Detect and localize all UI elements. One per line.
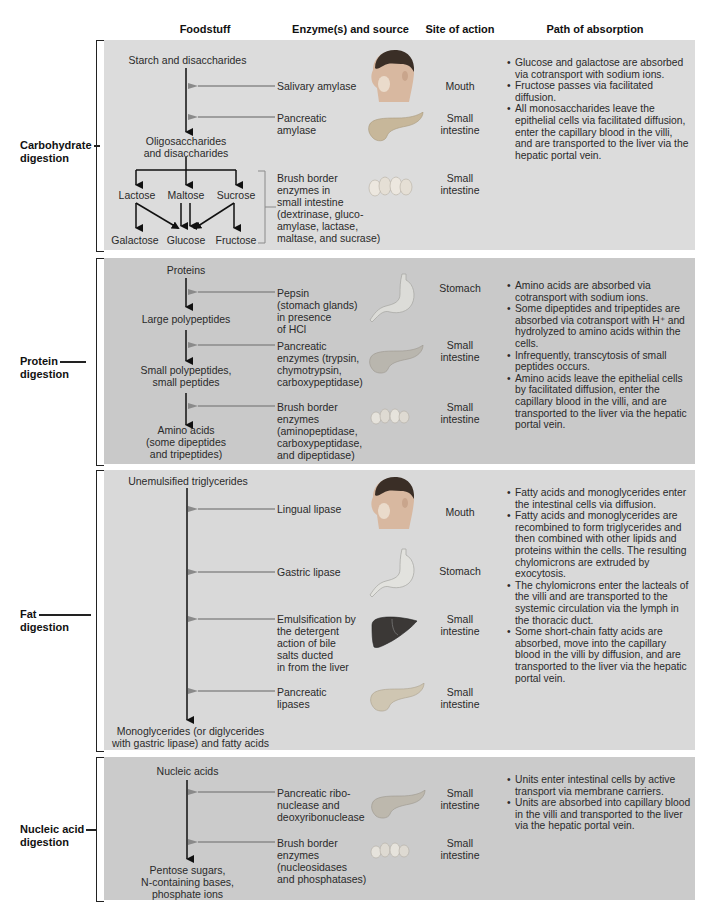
end-line: Monoglycerides (or diglycerides bbox=[117, 725, 265, 737]
site-mouth: Mouth bbox=[425, 506, 495, 518]
enzyme-line: amylase, lactase, bbox=[277, 220, 358, 232]
absorption-item: Amino acids are absorbed via cotransport… bbox=[507, 280, 692, 303]
enzyme-line: small intestine bbox=[277, 196, 344, 208]
fat-absorption-list: Fatty acids and monoglycerides enter the… bbox=[507, 487, 692, 684]
proteins-label: Proteins bbox=[140, 264, 232, 276]
enzyme-line: in presence bbox=[277, 311, 331, 323]
starch-label: Starch and disaccharides bbox=[120, 54, 255, 66]
enzyme-line: (aminopeptidase, bbox=[277, 425, 358, 437]
stomach-icon bbox=[368, 547, 420, 599]
site-line: intestine bbox=[440, 124, 479, 136]
enzyme-bile-salts: Emulsification by the detergent action o… bbox=[277, 613, 356, 673]
site-line: Small bbox=[447, 686, 473, 698]
glucose-label: Glucose bbox=[165, 234, 207, 246]
enzyme-brush-border-nucleic: Brush border enzymes (nucleosidases and … bbox=[277, 837, 366, 885]
site-line: Small bbox=[447, 837, 473, 849]
site-line: Small bbox=[447, 339, 473, 351]
enzyme-line: carboxypeptidase) bbox=[277, 376, 363, 388]
enzyme-line: of HCl bbox=[277, 323, 306, 335]
site-small-intestine: Small intestine bbox=[425, 837, 495, 861]
enzyme-line: Pancreatic bbox=[277, 112, 327, 124]
maltose-label: Maltose bbox=[165, 189, 207, 201]
monoglycerides-label: Monoglycerides (or diglycerides with gas… bbox=[108, 725, 273, 749]
fructose-label: Fructose bbox=[212, 234, 260, 246]
enzyme-line: enzymes bbox=[277, 413, 319, 425]
site-line: intestine bbox=[440, 799, 479, 811]
oligosaccharides-line1: Oligosaccharides bbox=[146, 135, 227, 147]
lactose-label: Lactose bbox=[116, 189, 158, 201]
site-small-intestine: Small intestine bbox=[425, 112, 495, 136]
head-mouth-icon bbox=[367, 48, 417, 106]
step-line: (some dipeptides bbox=[146, 436, 226, 448]
absorption-item: Fructose passes via facilitated diffusio… bbox=[507, 80, 692, 103]
enzyme-salivary-amylase: Salivary amylase bbox=[277, 80, 356, 92]
nucleic-acids-label: Nucleic acids bbox=[140, 765, 235, 777]
enzyme-nucleases: Pancreatic ribo- nuclease and deoxyribon… bbox=[277, 787, 365, 823]
sucrose-label: Sucrose bbox=[214, 189, 258, 201]
enzyme-pepsin: Pepsin (stomach glands) in presence of H… bbox=[277, 287, 358, 335]
site-line: Small bbox=[447, 112, 473, 124]
enzyme-line: salts ducted bbox=[277, 649, 333, 661]
site-line: Small bbox=[447, 401, 473, 413]
site-mouth: Mouth bbox=[425, 80, 495, 92]
absorption-item: All monosaccharides leave the epithelial… bbox=[507, 103, 692, 161]
absorption-item: Some dipeptides and tripeptides are abso… bbox=[507, 303, 692, 349]
site-line: Small bbox=[447, 787, 473, 799]
step-line: and tripeptides) bbox=[150, 448, 222, 460]
end-line: phosphate ions bbox=[152, 888, 223, 900]
intestinal-villi-icon bbox=[370, 407, 412, 425]
enzyme-brush-border-carb: Brush border enzymes in small intestine … bbox=[277, 172, 380, 244]
enzyme-pancreatic-proteases: Pancreatic enzymes (trypsin, chymotrypsi… bbox=[277, 340, 363, 388]
enzyme-pancreatic-lipases: Pancreatic lipases bbox=[277, 686, 327, 710]
site-line: Small bbox=[447, 172, 473, 184]
protein-absorption-list: Amino acids are absorbed via cotransport… bbox=[507, 280, 692, 431]
oligosaccharides-label: Oligosaccharides and disaccharides bbox=[130, 135, 242, 159]
absorption-item: Glucose and galactose are absorbed via c… bbox=[507, 57, 692, 80]
enzyme-line: Emulsification by bbox=[277, 613, 356, 625]
enzyme-line: enzymes bbox=[277, 849, 319, 861]
site-stomach: Stomach bbox=[425, 565, 495, 577]
enzyme-line: Pancreatic ribo- bbox=[277, 787, 351, 799]
enzyme-pancreatic-amylase: Pancreatic amylase bbox=[277, 112, 327, 136]
absorption-item: The chylomicrons enter the lacteals of t… bbox=[507, 580, 692, 626]
enzyme-line: enzymes in bbox=[277, 184, 330, 196]
enzyme-line: (nucleosidases bbox=[277, 861, 347, 873]
site-line: intestine bbox=[440, 849, 479, 861]
site-stomach: Stomach bbox=[425, 282, 495, 294]
large-polypeptides-label: Large polypeptides bbox=[120, 313, 252, 325]
enzyme-line: maltase, and sucrase) bbox=[277, 232, 380, 244]
pancreas-icon bbox=[367, 112, 425, 144]
absorption-item: Fatty acids and monoglycerides enter the… bbox=[507, 487, 692, 510]
enzyme-line: (dextrinase, gluco- bbox=[277, 208, 363, 220]
absorption-item: Units are absorbed into capillary blood … bbox=[507, 797, 692, 832]
enzyme-line: the detergent bbox=[277, 625, 339, 637]
enzyme-line: and phosphatases) bbox=[277, 873, 366, 885]
enzyme-line: deoxyribonuclease bbox=[277, 811, 365, 823]
step-line: small peptides bbox=[152, 376, 219, 388]
absorption-item: Infrequently, transcytosis of small pept… bbox=[507, 350, 692, 373]
site-line: intestine bbox=[440, 625, 479, 637]
enzyme-line: Pancreatic bbox=[277, 340, 327, 352]
enzyme-lingual-lipase: Lingual lipase bbox=[277, 503, 341, 515]
enzyme-brush-border-protein: Brush border enzymes (aminopeptidase, ca… bbox=[277, 401, 362, 461]
oligosaccharides-line2: and disaccharides bbox=[144, 147, 229, 159]
absorption-item: Amino acids leave the epithelial cells b… bbox=[507, 373, 692, 431]
end-line: N-containing bases, bbox=[141, 876, 234, 888]
nucleic-absorption-list: Units enter intestinal cells by active t… bbox=[507, 774, 692, 832]
intestinal-villi-icon bbox=[367, 175, 415, 197]
enzyme-line: (stomach glands) bbox=[277, 299, 358, 311]
site-small-intestine: Small intestine bbox=[425, 339, 495, 363]
end-line: Pentose sugars, bbox=[150, 864, 226, 876]
absorption-item: Some short-chain fatty acids are absorbe… bbox=[507, 626, 692, 684]
enzyme-line: chymotrypsin, bbox=[277, 364, 342, 376]
end-line: with gastric lipase) and fatty acids bbox=[112, 737, 269, 749]
pancreas-icon bbox=[370, 790, 426, 820]
enzyme-line: Brush border bbox=[277, 401, 338, 413]
head-mouth-icon bbox=[367, 475, 417, 533]
enzyme-line: and dipeptidase) bbox=[277, 449, 355, 461]
site-small-intestine: Small intestine bbox=[425, 613, 495, 637]
enzyme-line: in from the liver bbox=[277, 661, 349, 673]
site-line: intestine bbox=[440, 184, 479, 196]
liver-icon bbox=[370, 615, 418, 649]
enzyme-gastric-lipase: Gastric lipase bbox=[277, 566, 341, 578]
